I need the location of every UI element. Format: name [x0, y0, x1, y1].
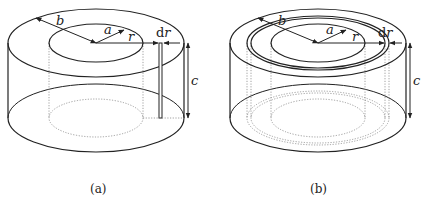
caption-b: (b) — [310, 182, 327, 196]
figure-a: b a r dr c (a) — [8, 9, 199, 196]
label-b: b — [278, 13, 286, 28]
caption-a: (a) — [90, 182, 107, 196]
bottom-outer-ellipse-front — [230, 118, 406, 152]
bottom-inner-ellipse-dotted — [271, 99, 365, 137]
bottom-outer-ellipse-back — [230, 84, 406, 118]
radius-b-arrow — [36, 18, 96, 43]
diagram-canvas: b a r dr c (a) b a r dr c (b) — [0, 0, 422, 204]
label-r: r — [128, 29, 135, 44]
label-dr: dr — [378, 25, 393, 40]
label-b: b — [56, 13, 64, 28]
label-a: a — [326, 22, 334, 37]
bottom-outer-ellipse-back — [8, 84, 184, 118]
label-c: c — [413, 73, 421, 88]
label-r: r — [352, 29, 359, 44]
bottom-outer-ellipse-front — [8, 118, 184, 152]
label-a: a — [104, 22, 112, 37]
strip-dr — [159, 43, 162, 118]
figure-b: b a r dr c (b) — [230, 9, 421, 196]
label-c: c — [191, 73, 199, 88]
bottom-inner-ellipse-dotted — [49, 99, 143, 137]
label-dr: dr — [156, 25, 171, 40]
radius-b-arrow — [258, 18, 318, 43]
